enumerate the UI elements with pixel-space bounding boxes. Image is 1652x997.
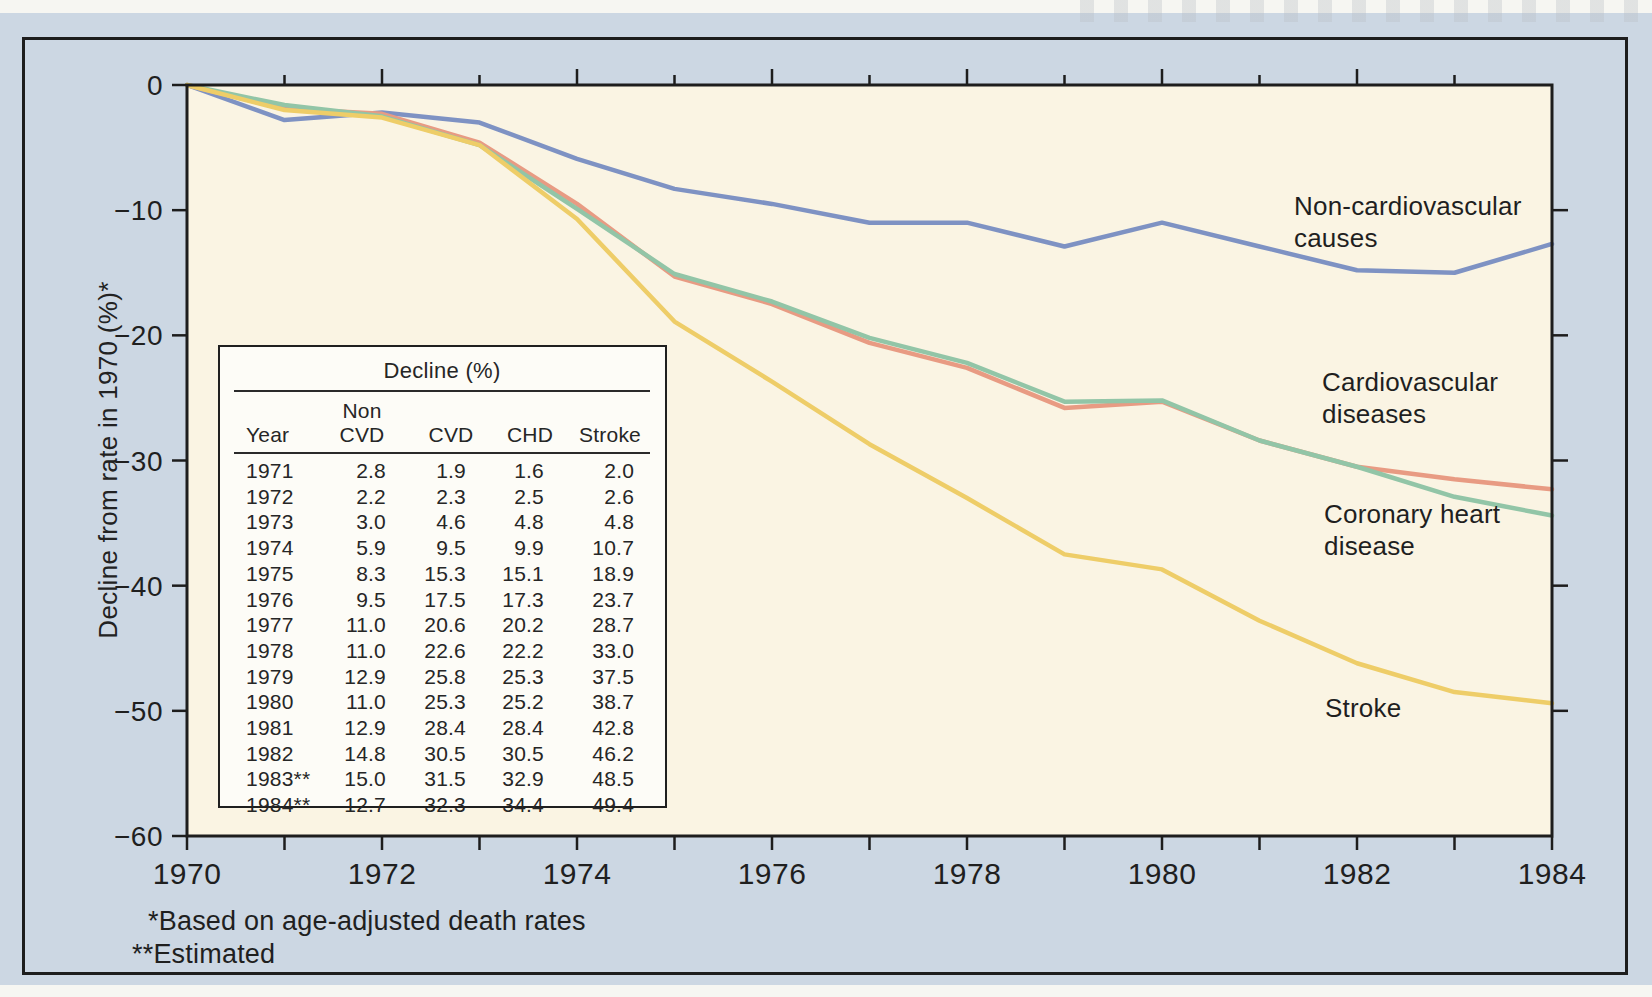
cell-cvd: 1.9 bbox=[412, 453, 490, 484]
table-row: 1975 8.3 15.3 15.1 18.9 bbox=[234, 561, 650, 587]
y-tick-label: 0 bbox=[147, 70, 163, 101]
x-tick-label: 1976 bbox=[738, 857, 807, 890]
column-header-non-cvd: Non CVD bbox=[312, 391, 412, 453]
table-row: 1973 3.0 4.6 4.8 4.8 bbox=[234, 509, 650, 535]
table-row: 1972 2.2 2.3 2.5 2.6 bbox=[234, 484, 650, 510]
cell-non-cvd: 3.0 bbox=[312, 509, 412, 535]
table-row: 1984** 12.7 32.3 34.4 49.4 bbox=[234, 792, 650, 818]
cell-cvd: 32.3 bbox=[412, 792, 490, 818]
cell-year: 1981 bbox=[234, 715, 312, 741]
cell-non-cvd: 9.5 bbox=[312, 587, 412, 613]
cell-stroke: 48.5 bbox=[570, 766, 650, 792]
table-row: 1976 9.5 17.5 17.3 23.7 bbox=[234, 587, 650, 613]
cell-cvd: 25.8 bbox=[412, 664, 490, 690]
cell-chd: 9.9 bbox=[490, 535, 570, 561]
cell-cvd: 17.5 bbox=[412, 587, 490, 613]
x-tick-label: 1984 bbox=[1518, 857, 1587, 890]
cell-stroke: 38.7 bbox=[570, 689, 650, 715]
cell-non-cvd: 12.7 bbox=[312, 792, 412, 818]
y-tick-label: −50 bbox=[114, 696, 163, 727]
cell-stroke: 42.8 bbox=[570, 715, 650, 741]
column-header-stroke: Stroke bbox=[570, 391, 650, 453]
y-axis-title: Decline from rate in 1970 (%)* bbox=[93, 250, 123, 670]
cell-stroke: 10.7 bbox=[570, 535, 650, 561]
cell-cvd: 9.5 bbox=[412, 535, 490, 561]
cell-non-cvd: 8.3 bbox=[312, 561, 412, 587]
cell-year: 1973 bbox=[234, 509, 312, 535]
cell-cvd: 30.5 bbox=[412, 741, 490, 767]
cell-year: 1978 bbox=[234, 638, 312, 664]
cell-non-cvd: 12.9 bbox=[312, 664, 412, 690]
cell-non-cvd: 2.8 bbox=[312, 453, 412, 484]
cell-year: 1971 bbox=[234, 453, 312, 484]
cell-non-cvd: 12.9 bbox=[312, 715, 412, 741]
cell-chd: 20.2 bbox=[490, 612, 570, 638]
table-title: Decline (%) bbox=[234, 351, 650, 391]
cell-chd: 22.2 bbox=[490, 638, 570, 664]
cell-cvd: 4.6 bbox=[412, 509, 490, 535]
cell-chd: 4.8 bbox=[490, 509, 570, 535]
cell-stroke: 33.0 bbox=[570, 638, 650, 664]
cell-cvd: 28.4 bbox=[412, 715, 490, 741]
cell-non-cvd: 11.0 bbox=[312, 638, 412, 664]
inset-data-table-box: Decline (%) Year Non CVD CVD CHD Stroke … bbox=[218, 345, 667, 808]
cell-year: 1982 bbox=[234, 741, 312, 767]
x-tick-label: 1982 bbox=[1323, 857, 1392, 890]
cell-chd: 25.2 bbox=[490, 689, 570, 715]
table-row: 1982 14.8 30.5 30.5 46.2 bbox=[234, 741, 650, 767]
cell-stroke: 18.9 bbox=[570, 561, 650, 587]
x-tick-label: 1972 bbox=[348, 857, 417, 890]
cell-chd: 2.5 bbox=[490, 484, 570, 510]
line-label-cardiovascular: Cardiovascular diseases bbox=[1322, 366, 1498, 430]
cell-chd: 32.9 bbox=[490, 766, 570, 792]
cell-cvd: 31.5 bbox=[412, 766, 490, 792]
cell-stroke: 28.7 bbox=[570, 612, 650, 638]
inset-data-table: Decline (%) Year Non CVD CVD CHD Stroke … bbox=[234, 351, 650, 818]
cell-year: 1972 bbox=[234, 484, 312, 510]
cell-cvd: 20.6 bbox=[412, 612, 490, 638]
cell-cvd: 2.3 bbox=[412, 484, 490, 510]
x-tick-label: 1980 bbox=[1128, 857, 1197, 890]
cell-year: 1974 bbox=[234, 535, 312, 561]
line-label-stroke: Stroke bbox=[1325, 692, 1401, 724]
table-row: 1977 11.0 20.6 20.2 28.7 bbox=[234, 612, 650, 638]
cell-non-cvd: 14.8 bbox=[312, 741, 412, 767]
cell-non-cvd: 11.0 bbox=[312, 689, 412, 715]
cell-stroke: 49.4 bbox=[570, 792, 650, 818]
column-header-year: Year bbox=[234, 391, 312, 453]
y-tick-label: −60 bbox=[114, 821, 163, 852]
cell-stroke: 46.2 bbox=[570, 741, 650, 767]
table-row: 1974 5.9 9.5 9.9 10.7 bbox=[234, 535, 650, 561]
cell-stroke: 37.5 bbox=[570, 664, 650, 690]
cell-cvd: 25.3 bbox=[412, 689, 490, 715]
cell-cvd: 22.6 bbox=[412, 638, 490, 664]
cell-chd: 28.4 bbox=[490, 715, 570, 741]
cell-year: 1977 bbox=[234, 612, 312, 638]
cell-chd: 1.6 bbox=[490, 453, 570, 484]
cell-stroke: 2.0 bbox=[570, 453, 650, 484]
table-header-row: Year Non CVD CVD CHD Stroke bbox=[234, 391, 650, 453]
footnote-age-adjusted: *Based on age-adjusted death rates bbox=[148, 906, 586, 937]
cell-stroke: 2.6 bbox=[570, 484, 650, 510]
table-row: 1980 11.0 25.3 25.2 38.7 bbox=[234, 689, 650, 715]
line-label-non-cardiovascular: Non-cardiovascular causes bbox=[1294, 190, 1522, 254]
table-row: 1979 12.9 25.8 25.3 37.5 bbox=[234, 664, 650, 690]
line-label-coronary-heart-disease: Coronary heart disease bbox=[1324, 498, 1500, 562]
cell-chd: 15.1 bbox=[490, 561, 570, 587]
table-row: 1983** 15.0 31.5 32.9 48.5 bbox=[234, 766, 650, 792]
cell-chd: 25.3 bbox=[490, 664, 570, 690]
cell-stroke: 23.7 bbox=[570, 587, 650, 613]
cell-non-cvd: 5.9 bbox=[312, 535, 412, 561]
cell-year: 1980 bbox=[234, 689, 312, 715]
cell-stroke: 4.8 bbox=[570, 509, 650, 535]
x-tick-label: 1974 bbox=[543, 857, 612, 890]
cell-chd: 30.5 bbox=[490, 741, 570, 767]
column-header-chd: CHD bbox=[490, 391, 570, 453]
cell-year: 1979 bbox=[234, 664, 312, 690]
table-row: 1981 12.9 28.4 28.4 42.8 bbox=[234, 715, 650, 741]
x-tick-label: 1978 bbox=[933, 857, 1002, 890]
cell-year: 1975 bbox=[234, 561, 312, 587]
cell-non-cvd: 15.0 bbox=[312, 766, 412, 792]
cell-non-cvd: 2.2 bbox=[312, 484, 412, 510]
table-row: 1971 2.8 1.9 1.6 2.0 bbox=[234, 453, 650, 484]
